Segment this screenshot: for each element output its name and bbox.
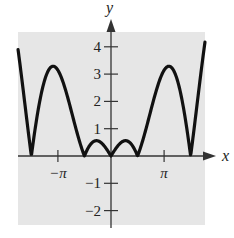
y-tick-label: 4	[94, 39, 102, 55]
y-tick-label: −1	[85, 175, 101, 191]
y-tick-label: −2	[85, 203, 101, 219]
x-axis-arrow-icon	[203, 152, 216, 161]
y-tick-label: 1	[94, 121, 102, 137]
y-axis-arrow-icon	[107, 19, 116, 32]
function-graph: −ππ4321−1−2 x y	[0, 0, 234, 238]
y-tick-label: 2	[94, 93, 102, 109]
x-tick-label: −π	[49, 165, 67, 181]
y-tick-label: 3	[94, 66, 102, 82]
x-tick-label: π	[160, 165, 168, 181]
y-axis-label: y	[104, 0, 114, 17]
x-axis-label: x	[221, 147, 229, 164]
